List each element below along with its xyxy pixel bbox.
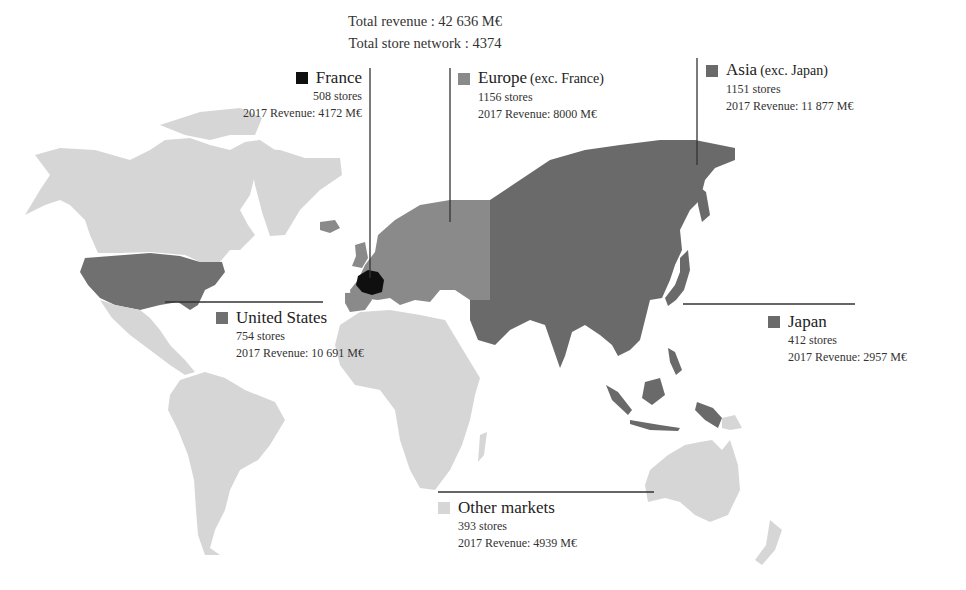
swatch-europe	[458, 73, 470, 85]
region-name-united-states: United States	[236, 308, 327, 328]
total-revenue: Total revenue : 42 636 M€	[300, 10, 550, 32]
totals-block: Total revenue : 42 636 M€ Total store ne…	[300, 10, 550, 54]
region-new-guinea	[695, 402, 722, 428]
legend-united-states: United States 754 stores 2017 Revenue: 1…	[216, 308, 416, 362]
region-kamchatka	[697, 185, 710, 222]
store-count-japan: 412 stores	[768, 332, 958, 349]
store-count-other-markets: 393 stores	[438, 518, 658, 535]
swatch-france	[296, 72, 308, 84]
revenue-other-markets: 2017 Revenue: 4939 M€	[438, 535, 658, 552]
store-count-france: 508 stores	[200, 88, 362, 105]
store-count-europe: 1156 stores	[458, 89, 678, 106]
total-store-network: Total store network : 4374	[300, 32, 550, 54]
region-central-america	[100, 300, 195, 375]
swatch-united-states	[216, 312, 228, 324]
region-madagascar	[478, 432, 487, 462]
region-name-europe: Europe	[478, 68, 527, 87]
region-qualifier-europe: (exc. France)	[530, 71, 604, 86]
region-name-japan: Japan	[788, 312, 827, 332]
region-borneo	[642, 378, 665, 405]
region-south-america	[168, 372, 285, 555]
swatch-asia	[706, 65, 718, 77]
legend-france: France 508 stores 2017 Revenue: 4172 M€	[200, 68, 362, 122]
revenue-asia: 2017 Revenue: 11 877 M€	[706, 98, 926, 115]
region-name-asia: Asia	[726, 60, 757, 79]
region-png	[722, 415, 742, 430]
revenue-europe: 2017 Revenue: 8000 M€	[458, 106, 678, 123]
revenue-united-states: 2017 Revenue: 10 691 M€	[216, 345, 416, 362]
region-canada	[25, 138, 275, 262]
swatch-other-markets	[438, 502, 450, 514]
swatch-japan	[768, 316, 780, 328]
legend-other-markets: Other markets 393 stores 2017 Revenue: 4…	[438, 498, 658, 552]
region-sumatra	[606, 385, 632, 415]
legend-asia: Asia(exc. Japan) 1151 stores 2017 Revenu…	[706, 60, 926, 115]
region-iceland	[320, 220, 340, 233]
region-java	[630, 420, 680, 431]
region-asia	[470, 140, 735, 368]
revenue-france: 2017 Revenue: 4172 M€	[200, 105, 362, 122]
region-united-kingdom	[352, 242, 368, 268]
region-new-zealand	[755, 520, 782, 565]
region-australia	[645, 440, 740, 522]
region-qualifier-asia: (exc. Japan)	[760, 63, 828, 78]
store-count-asia: 1151 stores	[706, 81, 926, 98]
region-philippines	[668, 348, 682, 375]
region-name-france: France	[316, 68, 362, 88]
revenue-japan: 2017 Revenue: 2957 M€	[768, 349, 958, 366]
legend-europe: Europe(exc. France) 1156 stores 2017 Rev…	[458, 68, 678, 123]
region-name-other-markets: Other markets	[458, 498, 555, 518]
legend-japan: Japan 412 stores 2017 Revenue: 2957 M€	[768, 312, 958, 366]
store-count-united-states: 754 stores	[216, 328, 416, 345]
